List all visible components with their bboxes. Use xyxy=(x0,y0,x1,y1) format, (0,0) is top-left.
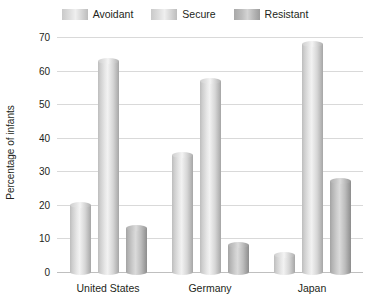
legend-swatch-avoidant xyxy=(62,9,88,20)
legend-label-resistant: Resistant xyxy=(265,9,309,20)
bar-groups: United StatesGermanyJapan xyxy=(57,37,363,272)
bar-chart: Avoidant Secure Resistant Percentage of … xyxy=(0,0,370,304)
group-bars xyxy=(261,37,363,272)
y-axis-tick-40: 40 xyxy=(39,132,50,143)
y-axis-tick-20: 20 xyxy=(39,199,50,210)
legend-swatch-secure xyxy=(151,9,177,20)
x-axis-label-germany: Germany xyxy=(159,282,261,294)
bar-avoidant-germany[interactable] xyxy=(172,155,193,273)
y-axis-tick-70: 70 xyxy=(39,32,50,43)
group-bars xyxy=(57,37,159,272)
bar-resistant-japan[interactable] xyxy=(330,181,351,272)
bar-secure-germany[interactable] xyxy=(200,81,221,272)
legend-label-secure: Secure xyxy=(182,9,215,20)
plot-area: 706050403020100 United StatesGermanyJapa… xyxy=(57,37,363,272)
bar-avoidant-japan[interactable] xyxy=(274,255,295,272)
bar-resistant-germany[interactable] xyxy=(228,245,249,272)
bar-group: Japan xyxy=(261,37,363,272)
bar-secure-united-states[interactable] xyxy=(98,61,119,273)
y-axis-title-text: Percentage of infants xyxy=(5,105,16,200)
bar-avoidant-united-states[interactable] xyxy=(70,205,91,272)
y-axis-tick-50: 50 xyxy=(39,99,50,110)
y-axis-tick-10: 10 xyxy=(39,233,50,244)
bar-group: United States xyxy=(57,37,159,272)
y-axis-title: Percentage of infants xyxy=(2,0,18,304)
y-axis-tick-30: 30 xyxy=(39,166,50,177)
bar-resistant-united-states[interactable] xyxy=(126,228,147,272)
y-axis-tick-0: 0 xyxy=(44,267,50,278)
legend-item-secure: Secure xyxy=(151,9,215,20)
bar-secure-japan[interactable] xyxy=(302,44,323,272)
x-axis-label-united-states: United States xyxy=(57,282,159,294)
legend-item-avoidant: Avoidant xyxy=(62,9,134,20)
x-axis-label-japan: Japan xyxy=(261,282,363,294)
legend-label-avoidant: Avoidant xyxy=(93,9,134,20)
legend-swatch-resistant xyxy=(234,9,260,20)
chart-legend: Avoidant Secure Resistant xyxy=(0,5,370,23)
y-axis-tick-60: 60 xyxy=(39,65,50,76)
legend-item-resistant: Resistant xyxy=(234,9,309,20)
bar-group: Germany xyxy=(159,37,261,272)
group-bars xyxy=(159,37,261,272)
